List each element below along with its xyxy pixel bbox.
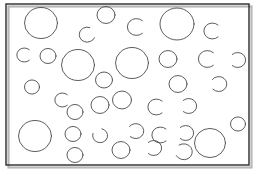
figure-canvas xyxy=(0,0,261,176)
circle-field-figure xyxy=(0,0,261,176)
